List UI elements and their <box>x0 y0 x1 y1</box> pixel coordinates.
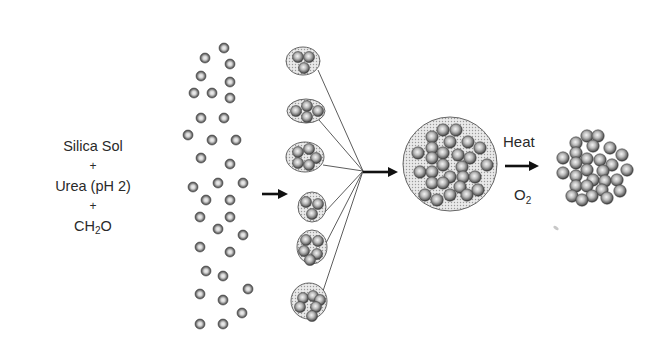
aggregate-particle <box>452 149 464 161</box>
sol-particle <box>218 319 228 329</box>
cluster-particle <box>302 101 313 112</box>
reactant-urea: Urea (pH 2) <box>18 176 168 197</box>
oxygen-label: O2 <box>514 186 531 203</box>
aggregate-particle <box>419 189 431 201</box>
cluster-particle <box>295 302 306 313</box>
cluster-particle <box>304 144 315 155</box>
calcined-particle <box>576 194 588 206</box>
reactant-formaldehyde: CH2O <box>18 216 168 237</box>
cluster-particle <box>313 106 324 117</box>
sol-particle <box>195 242 205 252</box>
heat-label: Heat <box>503 133 535 150</box>
aggregate-particle <box>426 177 438 189</box>
aggregate-particle <box>444 136 456 148</box>
particle-cluster-5 <box>297 230 327 266</box>
small-particle-clusters <box>286 47 327 322</box>
aggregate-particle <box>426 166 438 178</box>
calcined-particle <box>557 167 569 179</box>
sol-particle <box>213 224 223 234</box>
sol-particle <box>196 71 206 81</box>
dispersed-sol-particles <box>183 43 253 329</box>
calcined-particle <box>621 164 633 176</box>
smudge-mark <box>553 225 560 231</box>
calcined-particle <box>601 192 613 204</box>
aggregate-particle <box>450 124 462 136</box>
aggregate-particle <box>431 194 443 206</box>
aggregate-particle <box>426 152 438 164</box>
reactant-silica-sol: Silica Sol <box>18 136 168 157</box>
sol-particle <box>225 59 235 69</box>
connector-line <box>325 171 363 245</box>
aggregate-particle <box>469 171 481 183</box>
sol-particle <box>225 212 235 222</box>
sol-particle <box>225 247 235 257</box>
sol-particle <box>225 77 235 87</box>
reactants-label: Silica Sol + Urea (pH 2) + CH2O <box>18 136 168 237</box>
calcined-particle <box>614 185 626 197</box>
cluster-particle <box>301 235 312 246</box>
plus-sign-2: + <box>18 197 168 216</box>
calcined-particle <box>604 142 616 154</box>
sol-particle <box>195 319 205 329</box>
cluster-particle <box>293 147 304 158</box>
sol-particle <box>213 178 223 188</box>
particle-cluster-2 <box>287 99 325 123</box>
aggregate-particle <box>437 124 449 136</box>
calcined-particle <box>581 153 593 165</box>
particle-cluster-1 <box>286 47 320 75</box>
aggregate-particle <box>474 142 486 154</box>
cluster-particle <box>313 199 324 210</box>
particle-cluster-4 <box>298 192 326 222</box>
connector-line <box>323 165 363 171</box>
aggregate-particle <box>437 147 449 159</box>
sol-particle <box>201 195 211 205</box>
sol-particle <box>207 88 217 98</box>
connector-line <box>318 70 363 171</box>
cluster-particle <box>307 311 318 322</box>
connector-line <box>325 171 363 212</box>
calcined-particle <box>616 149 628 161</box>
sol-particle <box>207 135 217 145</box>
calcined-particle <box>594 154 606 166</box>
sol-particle <box>201 266 211 276</box>
sol-particle <box>189 88 199 98</box>
aggregate-particle <box>412 147 424 159</box>
particle-cluster-6 <box>291 283 327 322</box>
aggregate-particle <box>472 184 484 196</box>
aggregate-particle <box>437 177 449 189</box>
sol-particle <box>188 182 198 192</box>
sol-particle <box>219 113 229 123</box>
aggregate-particle <box>481 159 493 171</box>
sol-particle <box>225 93 235 103</box>
particle-cluster-3 <box>286 142 324 172</box>
sol-particle <box>243 284 253 294</box>
sol-particle <box>225 159 235 169</box>
sol-particle <box>195 289 205 299</box>
cluster-particle <box>293 158 304 169</box>
aggregate-microsphere <box>403 117 497 211</box>
scan-artifact <box>553 225 560 231</box>
connector-line <box>319 120 363 171</box>
aggregate-particle <box>444 189 456 201</box>
aggregation-lines <box>318 70 363 294</box>
cluster-particle <box>301 197 312 208</box>
sol-particle <box>238 230 248 240</box>
aggregate-particle <box>414 166 426 178</box>
connector-line <box>322 171 363 294</box>
cluster-particle <box>305 255 316 266</box>
final-calcined-cluster <box>557 130 633 206</box>
sol-particle <box>183 130 193 140</box>
cluster-particle <box>291 106 302 117</box>
sol-particle <box>219 43 229 53</box>
sol-particle <box>238 178 248 188</box>
sol-particle <box>237 308 247 318</box>
aggregate-particle <box>426 131 438 143</box>
sol-particle <box>218 271 228 281</box>
cluster-particle <box>307 209 318 220</box>
calcined-particle <box>611 174 623 186</box>
cluster-particle <box>313 236 324 247</box>
cluster-particle <box>302 112 313 123</box>
sol-particle <box>218 295 228 305</box>
sol-particle <box>225 195 235 205</box>
cluster-particle <box>304 52 315 63</box>
